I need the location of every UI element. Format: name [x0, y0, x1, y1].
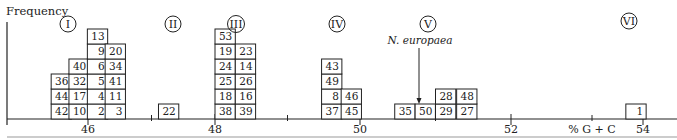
group-label: IV [331, 18, 344, 31]
x-tick-label: 50 [353, 123, 367, 136]
box-value: 42 [55, 105, 68, 117]
box-value: 28 [439, 90, 452, 102]
group-label: I [66, 18, 70, 31]
group-label: II [169, 18, 178, 31]
box-value: 6 [98, 60, 105, 72]
box-value: 50 [419, 105, 432, 117]
box-value: 53 [219, 30, 232, 42]
box-value: 41 [109, 75, 122, 87]
box-value: 16 [239, 90, 253, 102]
box-value: 29 [439, 105, 452, 117]
box-value: 27 [461, 105, 474, 117]
box-value: 8 [332, 90, 339, 102]
box-value: 17 [73, 90, 86, 102]
x-tick-label: 48 [208, 123, 222, 136]
box-value: 9 [98, 45, 105, 57]
x-axis-label: % G + C [568, 123, 615, 136]
box-value: 1 [636, 105, 643, 117]
box-value: 5 [98, 75, 105, 87]
box-value: 44 [55, 90, 69, 102]
box-value: 38 [219, 105, 232, 117]
box-value: 14 [239, 60, 253, 72]
x-tick-label: 52 [504, 123, 518, 136]
box-value: 10 [73, 105, 86, 117]
box-value: 23 [239, 45, 252, 57]
box-value: 25 [219, 75, 232, 87]
y-axis-label: Frequency [6, 4, 69, 18]
box-value: 4 [98, 90, 105, 102]
box-value: 37 [326, 105, 339, 117]
box-value: 32 [73, 75, 86, 87]
box-value: 39 [239, 105, 252, 117]
x-tick-label: 54 [636, 123, 650, 136]
box-value: 18 [219, 90, 232, 102]
group-label: V [423, 18, 433, 31]
box-value: 11 [109, 90, 122, 102]
box-value: 49 [326, 75, 339, 87]
box-value: 35 [399, 105, 412, 117]
box-value: 3 [116, 105, 123, 117]
annotation-label: N. europaea [387, 34, 453, 46]
box-value: 45 [345, 105, 358, 117]
annotation-arrow-head [417, 98, 422, 104]
box-value: 43 [326, 60, 339, 72]
box-value: 19 [219, 45, 232, 57]
box-value: 22 [162, 105, 175, 117]
box-value: 46 [345, 90, 359, 102]
box-value: 13 [91, 30, 104, 42]
x-tick-label: 46 [81, 123, 95, 136]
group-label: VI [622, 15, 635, 28]
box-value: 36 [55, 75, 69, 87]
histogram-boxes: 4244361017324024569133114134202238182524… [51, 29, 646, 119]
box-value: 26 [239, 75, 253, 87]
box-value: 34 [109, 60, 123, 72]
box-value: 48 [461, 90, 474, 102]
box-value: 24 [219, 60, 233, 72]
gc-content-histogram: Frequency % G + C 4648505254 42443610173… [0, 0, 677, 140]
box-value: 40 [73, 60, 86, 72]
group-labels: IIIIIIIVVVI [60, 13, 637, 33]
group-label: III [229, 18, 242, 31]
box-value: 20 [109, 45, 122, 57]
box-value: 2 [98, 105, 105, 117]
